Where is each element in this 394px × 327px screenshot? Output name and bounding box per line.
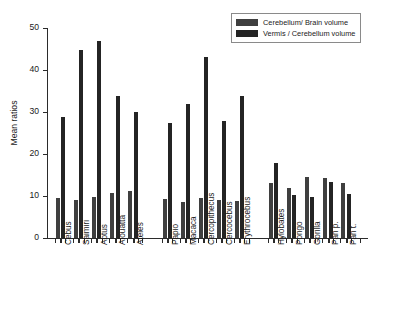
x-tick-13-2	[329, 239, 330, 243]
x-axis-label-gorilla: Gorilla	[313, 221, 322, 245]
x-axis-label-hylobates: Hylobates	[277, 209, 286, 245]
y-tick-20	[43, 154, 47, 155]
y-tick-50	[43, 28, 47, 29]
x-tick-8-2	[222, 239, 223, 243]
bar-saimiri-series-0	[74, 200, 78, 238]
x-tick-3-2	[116, 239, 117, 243]
x-axis-label-saimiri: Saimiri	[82, 220, 91, 245]
y-tick-label-20: 20	[29, 148, 39, 158]
bar-cebus-series-0	[56, 198, 60, 238]
legend-swatch-cerebellum-brain	[236, 19, 258, 26]
x-tick-0-0	[55, 239, 56, 243]
x-tick-11-2	[292, 239, 293, 243]
x-axis-label-cercopithecus: Cercopithecus	[207, 193, 216, 245]
x-tick-6-2	[186, 239, 187, 243]
x-tick-end	[360, 239, 361, 243]
bar-ateles-series-0	[128, 191, 132, 238]
x-tick-12-2	[310, 239, 311, 243]
x-tick-2-2	[97, 239, 98, 243]
x-axis-label-macaca: Macaca	[189, 216, 198, 245]
y-axis-label: Mean ratios	[9, 88, 19, 158]
x-axis-label-alouatta: Alouatta	[118, 215, 127, 245]
x-axis-label-pongo: Pongo	[295, 221, 304, 245]
y-tick-30	[43, 112, 47, 113]
y-tick-0	[43, 238, 47, 239]
x-tick-11-0	[286, 239, 287, 243]
bar-macaca-series-0	[181, 202, 185, 238]
x-tick-4-0	[127, 239, 128, 243]
x-tick-10-2	[274, 239, 275, 243]
bar-cebus-series-1	[61, 117, 65, 238]
x-tick-9-2	[240, 239, 241, 243]
bar-gorilla-series-0	[305, 177, 309, 238]
y-tick-label-30: 30	[29, 106, 39, 116]
x-axis-label-cercocebus: Cercocebus	[225, 201, 234, 245]
x-tick-5-0	[162, 239, 163, 243]
x-axis-label-cebus: Cebus	[64, 221, 73, 245]
y-tick-40	[43, 70, 47, 71]
bar-aotus-series-0	[92, 197, 96, 238]
x-tick-13-0	[322, 239, 323, 243]
bar-cercopithecus-series-0	[199, 198, 203, 238]
legend-entry-cerebellum-brain: Cerebellum/ Brain volume	[236, 17, 355, 28]
x-axis-label-pan-t: Pan t.	[349, 224, 358, 245]
x-tick-0-2	[61, 239, 62, 243]
x-axis-label-erythrocebus: Erythrocebus	[243, 197, 252, 245]
bar-pongo-series-0	[287, 188, 291, 238]
chart-figure: Cerebellum/ Brain volume Vermis / Cerebe…	[0, 0, 394, 327]
x-axis-label-ateles: Ateles	[136, 222, 145, 245]
bar-alouatta-series-0	[110, 193, 114, 238]
x-tick-5-2	[168, 239, 169, 243]
bar-aotus-series-1	[97, 41, 101, 238]
x-axis-label-aotus: Aotus	[100, 224, 109, 245]
legend-label-cerebellum-brain: Cerebellum/ Brain volume	[263, 18, 348, 27]
x-tick-4-2	[134, 239, 135, 243]
bar-pan-t-series-0	[341, 183, 345, 238]
y-tick-label-10: 10	[29, 190, 39, 200]
y-tick-label-50: 50	[29, 22, 39, 32]
bar-cercocebus-series-0	[217, 200, 221, 238]
x-tick-14-0	[340, 239, 341, 243]
x-tick-1-0	[73, 239, 74, 243]
y-axis-line	[47, 28, 48, 239]
x-tick-14-2	[347, 239, 348, 243]
x-tick-9-0	[234, 239, 235, 243]
y-tick-label-0: 0	[34, 232, 39, 242]
x-tick-3-0	[109, 239, 110, 243]
bar-erythrocebus-series-0	[235, 201, 239, 238]
bar-hylobates-series-0	[269, 183, 273, 238]
y-tick-10	[43, 196, 47, 197]
bar-papio-series-1	[168, 123, 172, 238]
bar-papio-series-0	[163, 199, 167, 238]
x-tick-1-2	[79, 239, 80, 243]
x-tick-2-0	[91, 239, 92, 243]
x-tick-7-2	[204, 239, 205, 243]
bar-saimiri-series-1	[79, 50, 83, 238]
x-axis-label-papio: Papio	[171, 224, 180, 245]
y-tick-label-40: 40	[29, 64, 39, 74]
x-tick-12-0	[304, 239, 305, 243]
bar-pan-p-series-0	[323, 178, 327, 238]
bar-ateles-series-1	[134, 112, 138, 238]
x-axis-label-pan-p: Pan p.	[331, 221, 340, 245]
x-tick-10-0	[268, 239, 269, 243]
